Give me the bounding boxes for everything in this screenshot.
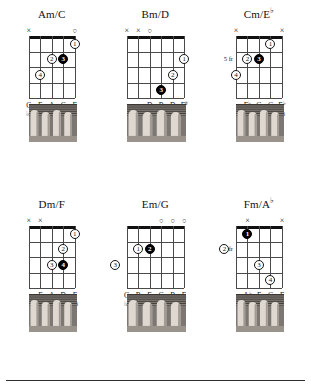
fret-line bbox=[127, 273, 185, 274]
chord-title-text: Bm/D bbox=[142, 8, 170, 20]
open-string-marker: ○ bbox=[70, 26, 79, 35]
string-line bbox=[63, 36, 64, 98]
chord-title: Dm/F bbox=[0, 198, 104, 211]
chord-card-cm-eb: Cm/E♭××5 fr1234E♭GCE♭♭351♭3 bbox=[207, 8, 311, 194]
fret-position-label: 5 fr bbox=[214, 55, 233, 62]
chord-title-accidental: ♭ bbox=[270, 196, 274, 205]
fret-line bbox=[29, 98, 75, 99]
finger-dot-1: 1 bbox=[70, 229, 80, 239]
chord-title: Cm/E♭ bbox=[207, 8, 311, 21]
muted-string-marker: × bbox=[36, 216, 45, 225]
fret-line bbox=[236, 288, 282, 289]
chord-title: Fm/A♭ bbox=[207, 198, 311, 211]
hand-position-photo bbox=[29, 294, 77, 332]
string-markers: ×× bbox=[236, 216, 282, 225]
finger-dot-1: 1 bbox=[242, 229, 252, 239]
string-line bbox=[259, 36, 260, 98]
string-line bbox=[282, 226, 283, 288]
muted-string-marker: × bbox=[277, 26, 286, 35]
chord-chart-sheet: Am/C×○1234CEACE♭351♭35Bm/D××○123DBDF♯♭31… bbox=[0, 0, 311, 392]
string-markers: ×○ bbox=[29, 26, 75, 35]
muted-string-marker: × bbox=[134, 26, 143, 35]
chord-title-text: Fm/A bbox=[244, 198, 270, 210]
hand-position-photo bbox=[236, 104, 284, 142]
hand-position-photo bbox=[236, 294, 284, 332]
muted-string-marker: × bbox=[122, 26, 131, 35]
string-line bbox=[29, 36, 30, 98]
photo-graphic bbox=[236, 104, 284, 142]
chord-card-bm-d: Bm/D××○123DBDF♯♭31♭35 bbox=[104, 8, 208, 194]
finger-dot-3: 3 bbox=[254, 54, 264, 64]
string-line bbox=[247, 36, 248, 98]
string-markers: ××○ bbox=[127, 26, 185, 35]
string-line bbox=[173, 36, 174, 98]
photo-graphic bbox=[236, 294, 284, 332]
muted-string-marker: × bbox=[243, 216, 252, 225]
chord-title-text: Dm/F bbox=[39, 198, 65, 210]
finger-dot-2: 2 bbox=[58, 244, 68, 254]
string-line bbox=[127, 36, 128, 98]
fret-line bbox=[29, 288, 75, 289]
fret-line bbox=[127, 67, 185, 68]
chord-title-text: Am/C bbox=[38, 8, 66, 20]
photo-graphic bbox=[29, 104, 77, 142]
string-markers: ×× bbox=[29, 216, 75, 225]
hand-position-photo bbox=[29, 104, 77, 142]
string-line bbox=[63, 226, 64, 288]
fret-line bbox=[127, 52, 185, 53]
open-string-marker: ○ bbox=[180, 216, 189, 225]
string-line bbox=[150, 226, 151, 288]
photo-graphic bbox=[127, 294, 187, 332]
chord-card-dm-f: Dm/F××1234FADF♭351♭3 bbox=[0, 198, 104, 384]
fret-line bbox=[127, 288, 185, 289]
string-line bbox=[150, 36, 151, 98]
page-bottom-rule bbox=[6, 380, 305, 381]
chord-row-top: Am/C×○1234CEACE♭351♭35Bm/D××○123DBDF♯♭31… bbox=[0, 8, 311, 194]
string-line bbox=[127, 226, 128, 288]
hand-position-photo bbox=[127, 104, 187, 142]
string-line bbox=[52, 226, 53, 288]
string-markers: ○○○ bbox=[127, 216, 185, 225]
finger-dot-1: 1 bbox=[70, 39, 80, 49]
fret-line bbox=[127, 98, 185, 99]
fret-line bbox=[127, 242, 185, 243]
nut-bar bbox=[127, 226, 185, 229]
string-line bbox=[29, 226, 30, 288]
chord-card-am-c: Am/C×○1234CEACE♭351♭35 bbox=[0, 8, 104, 194]
hand-position-photo bbox=[127, 294, 187, 332]
finger-dot-3: 3 bbox=[110, 260, 120, 270]
fret-grid bbox=[29, 36, 75, 98]
finger-dot-3: 3 bbox=[58, 54, 68, 64]
chord-title-accidental: ♭ bbox=[270, 6, 274, 15]
chord-card-fm-ab: Fm/A♭××3 fr1234A♭FCF♭3151 bbox=[207, 198, 311, 384]
finger-dot-3: 3 bbox=[47, 260, 57, 270]
fret-line bbox=[127, 257, 185, 258]
photo-graphic bbox=[29, 294, 77, 332]
string-line bbox=[138, 36, 139, 98]
finger-dot-1: 1 bbox=[133, 244, 143, 254]
finger-dot-2: 2 bbox=[145, 244, 155, 254]
muted-string-marker: × bbox=[231, 26, 240, 35]
finger-dot-1: 1 bbox=[265, 39, 275, 49]
string-line bbox=[173, 226, 174, 288]
string-line bbox=[184, 36, 185, 98]
chord-title: Am/C bbox=[0, 8, 104, 21]
open-string-marker: ○ bbox=[157, 216, 166, 225]
open-string-marker: ○ bbox=[168, 216, 177, 225]
nut-bar bbox=[127, 36, 185, 39]
finger-dot-4: 4 bbox=[58, 260, 68, 270]
string-line bbox=[236, 226, 237, 288]
string-line bbox=[40, 226, 41, 288]
string-line bbox=[52, 36, 53, 98]
string-line bbox=[184, 226, 185, 288]
muted-string-marker: × bbox=[277, 216, 286, 225]
finger-dot-2: 2 bbox=[219, 244, 229, 254]
chord-row-bottom: Dm/F××1234FADF♭351♭3Em/G○○○123GBEGBE♭351… bbox=[0, 198, 311, 384]
fret-grid bbox=[29, 226, 75, 288]
muted-string-marker: × bbox=[24, 216, 33, 225]
finger-dot-4: 4 bbox=[231, 70, 241, 80]
finger-dot-4: 4 bbox=[35, 70, 45, 80]
finger-dot-4: 4 bbox=[265, 275, 275, 285]
string-markers: ×× bbox=[236, 26, 282, 35]
finger-dot-2: 2 bbox=[47, 54, 57, 64]
